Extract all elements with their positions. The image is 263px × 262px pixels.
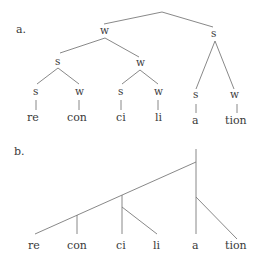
syllable-tion-b: tion [225,239,247,252]
edge-w-s [60,38,105,53]
syllable-a-b: a [192,239,199,252]
node-w-con: w [75,85,84,97]
panel-a-label: a. [16,23,26,36]
syllable-con-a: con [67,111,87,124]
syllable-tion-a: tion [225,114,247,127]
panel-b-label: b. [14,145,25,158]
edge-w-w3 [140,70,158,84]
edge-s-w2 [58,68,79,84]
syllable-ci-b: ci [116,239,126,252]
node-w-b: w [136,56,145,68]
edge-root-s [162,12,213,27]
edge-root-w [104,12,162,24]
syllable-li-a: li [155,111,163,124]
metrical-tree-diagram: a. w s s w s w s w s w re con ci li a ti… [0,0,263,262]
node-s-right: s [211,27,216,39]
node-s-re: s [33,85,38,97]
node-w-tion: w [230,88,239,100]
edge-s-s [196,41,215,89]
node-s-a: s [55,55,60,67]
syllable-li-b: li [153,239,161,252]
node-w-left: w [100,24,109,36]
edge-w-w [105,38,139,57]
syllable-ci-a: ci [116,111,126,124]
syllable-re-b: re [28,239,40,252]
edge-s-w [215,41,234,89]
edge-b-li [122,207,157,234]
syllable-a-a: a [192,114,199,127]
node-w-li: w [154,85,163,97]
edge-w-s3 [122,70,140,84]
syllable-re-a: re [27,111,39,124]
syllable-con-b: con [67,239,87,252]
node-s-ci: s [118,85,123,97]
edge-b-tion [196,197,237,239]
edge-s-s2 [37,68,58,84]
edge-b-diagonal-re [35,162,196,234]
node-s-a: s [193,88,198,100]
